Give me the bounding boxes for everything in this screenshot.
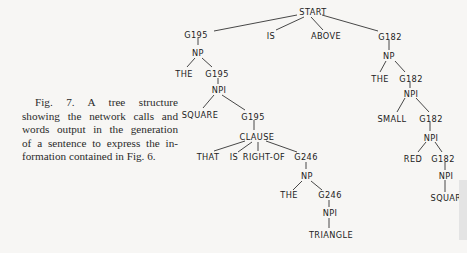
node-the: THE bbox=[370, 74, 389, 84]
node-square: SQUARE bbox=[182, 110, 219, 120]
node-start: START bbox=[299, 7, 327, 17]
node-g246: G246 bbox=[318, 190, 342, 200]
node-is: IS bbox=[267, 31, 275, 41]
node-np: NP bbox=[301, 171, 313, 181]
node-npi: NPI bbox=[404, 89, 419, 99]
node-np: NP bbox=[383, 51, 395, 61]
node-npi: NPI bbox=[424, 133, 439, 143]
tree-nodes: START G195 IS ABOVE G182 NP THE G195 NPI… bbox=[174, 7, 461, 240]
node-g182: G182 bbox=[419, 114, 443, 124]
node-g195: G195 bbox=[205, 69, 229, 79]
node-g195: G195 bbox=[241, 112, 265, 122]
node-red: RED bbox=[404, 154, 422, 164]
page-edge-shadow bbox=[459, 180, 467, 240]
node-triangle: TRIANGLE bbox=[308, 230, 353, 240]
node-npi: NPI bbox=[323, 208, 338, 218]
node-g195: G195 bbox=[184, 30, 208, 40]
node-the: THE bbox=[174, 69, 193, 79]
node-g246: G246 bbox=[294, 152, 318, 162]
node-g182: G182 bbox=[378, 32, 402, 42]
node-the: THE bbox=[279, 190, 298, 200]
node-np: NP bbox=[192, 48, 204, 58]
node-g182: G182 bbox=[399, 74, 423, 84]
node-clause: CLAUSE bbox=[240, 132, 275, 142]
node-square: SQUAR bbox=[431, 193, 462, 203]
node-is: IS bbox=[230, 152, 238, 162]
node-npi: NPI bbox=[212, 85, 227, 95]
node-npi: NPI bbox=[439, 171, 454, 181]
node-right-of: RIGHT-OF bbox=[243, 152, 285, 162]
node-small: SMALL bbox=[378, 114, 407, 124]
node-g182: G182 bbox=[431, 154, 455, 164]
node-that: THAT bbox=[196, 152, 220, 162]
node-above: ABOVE bbox=[311, 31, 341, 41]
tree-diagram: START G195 IS ABOVE G182 NP THE G195 NPI… bbox=[0, 0, 467, 253]
